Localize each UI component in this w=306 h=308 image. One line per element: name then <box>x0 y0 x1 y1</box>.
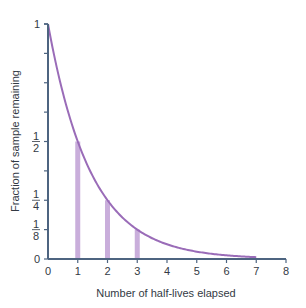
half-life-bar <box>75 142 80 260</box>
x-tick-label: 0 <box>45 265 51 277</box>
x-tick-label: 8 <box>283 265 289 277</box>
x-tick-label: 6 <box>223 265 229 277</box>
half-life-bar <box>135 230 140 259</box>
svg-text:1: 1 <box>33 130 39 142</box>
svg-text:1: 1 <box>33 188 39 200</box>
x-tick-label: 3 <box>134 265 140 277</box>
x-tick-label: 7 <box>253 265 259 277</box>
y-axis-ticks: 01814121 <box>32 18 48 265</box>
y-axis-label: Fraction of sample remaining <box>9 70 21 212</box>
half-life-chart: 01814121 012345678 Number of half-lives … <box>0 0 306 308</box>
svg-text:1: 1 <box>33 218 39 230</box>
x-axis-ticks: 012345678 <box>45 259 289 277</box>
half-life-bar <box>105 200 110 259</box>
x-axis-label: Number of half-lives elapsed <box>96 287 235 299</box>
svg-text:4: 4 <box>33 200 39 212</box>
y-tick-label: 1 <box>34 18 40 30</box>
y-tick-label-fraction: 18 <box>32 218 40 242</box>
y-tick-label-fraction: 14 <box>32 188 40 212</box>
y-tick-label: 0 <box>34 253 40 265</box>
y-tick-label-fraction: 12 <box>32 130 40 154</box>
x-tick-label: 2 <box>104 265 110 277</box>
svg-text:8: 8 <box>33 230 39 242</box>
svg-text:2: 2 <box>33 142 39 154</box>
axes <box>44 24 286 259</box>
x-tick-label: 1 <box>75 265 81 277</box>
x-tick-label: 5 <box>194 265 200 277</box>
x-tick-label: 4 <box>164 265 170 277</box>
